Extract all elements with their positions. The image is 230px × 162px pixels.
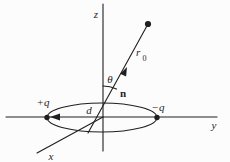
d-arrowhead bbox=[50, 113, 60, 120]
x-axis-line bbox=[37, 117, 103, 153]
theta-angle-arc bbox=[103, 86, 117, 89]
theta-label: θ bbox=[107, 73, 113, 85]
radius-label: r bbox=[136, 46, 141, 58]
negative-charge-dot bbox=[154, 115, 159, 120]
x-axis-label: x bbox=[48, 150, 54, 162]
normal-vector-label: n bbox=[120, 87, 126, 99]
separation-label: d bbox=[86, 104, 92, 116]
dipole-diagram: z y x +q −q d θ n r 0 bbox=[0, 0, 230, 162]
positive-charge-dot bbox=[44, 115, 49, 120]
radius-subscript: 0 bbox=[143, 54, 147, 63]
positive-charge-label: +q bbox=[37, 96, 50, 108]
z-axis-label: z bbox=[93, 8, 99, 20]
observation-point-dot bbox=[145, 21, 151, 27]
negative-charge-label: −q bbox=[152, 101, 165, 113]
dipole-diagram-canvas: z y x +q −q d θ n r 0 bbox=[0, 0, 230, 162]
y-axis-label: y bbox=[211, 119, 217, 131]
